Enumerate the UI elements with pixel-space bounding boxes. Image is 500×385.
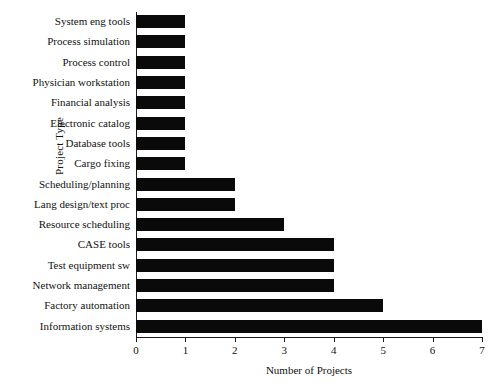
bar-row: Cargo fixing: [136, 154, 482, 174]
bar: [136, 218, 284, 231]
bar-row: Resource scheduling: [136, 215, 482, 235]
x-tick: [136, 337, 137, 342]
x-axis-title: Number of Projects: [136, 364, 482, 376]
x-tick: [383, 337, 384, 342]
bar-row: Process control: [136, 53, 482, 73]
category-label: Information systems: [40, 319, 130, 333]
x-tick-label: 3: [272, 344, 296, 356]
bar: [136, 238, 334, 251]
category-label: System eng tools: [55, 14, 130, 28]
bar-row: Network management: [136, 276, 482, 296]
x-tick-label: 7: [470, 344, 494, 356]
bar-row: Financial analysis: [136, 93, 482, 113]
category-label: Scheduling/planning: [39, 177, 130, 191]
bar-row: Electronic catalog: [136, 114, 482, 134]
bar-row: Scheduling/planning: [136, 175, 482, 195]
x-tick-label: 6: [421, 344, 445, 356]
bar-row: System eng tools: [136, 12, 482, 32]
bar: [136, 35, 185, 48]
category-label: Electronic catalog: [50, 116, 130, 130]
bar: [136, 15, 185, 28]
bar: [136, 299, 383, 312]
bar-chart: Project Type System eng toolsProcess sim…: [0, 0, 500, 385]
bar-row: Information systems: [136, 317, 482, 337]
bar: [136, 56, 185, 69]
x-tick-label: 5: [371, 344, 395, 356]
bar: [136, 137, 185, 150]
bar-row: Lang design/text proc: [136, 195, 482, 215]
category-label: Test equipment sw: [48, 258, 130, 272]
category-label: Resource scheduling: [39, 217, 130, 231]
category-label: Cargo fixing: [74, 156, 130, 170]
category-label: Lang design/text proc: [34, 197, 130, 211]
x-tick-label: 2: [223, 344, 247, 356]
category-label: Network management: [33, 278, 130, 292]
bar-row: Physician workstation: [136, 73, 482, 93]
bar-row: Database tools: [136, 134, 482, 154]
category-label: Process control: [62, 55, 130, 69]
bar: [136, 178, 235, 191]
x-tick-label: 1: [173, 344, 197, 356]
category-label: Factory automation: [44, 298, 130, 312]
bar: [136, 76, 185, 89]
bar-row: CASE tools: [136, 235, 482, 255]
bar: [136, 157, 185, 170]
bar: [136, 259, 334, 272]
bar: [136, 279, 334, 292]
plot-area: System eng toolsProcess simulationProces…: [136, 12, 482, 337]
bar-row: Test equipment sw: [136, 256, 482, 276]
x-axis-line: [136, 337, 483, 338]
x-tick: [482, 337, 483, 342]
bar: [136, 198, 235, 211]
bar-row: Process simulation: [136, 32, 482, 52]
category-label: Financial analysis: [51, 95, 130, 109]
x-tick-label: 0: [124, 344, 148, 356]
bar: [136, 320, 482, 333]
x-tick: [235, 337, 236, 342]
x-tick: [185, 337, 186, 342]
x-tick-label: 4: [322, 344, 346, 356]
category-label: Database tools: [66, 136, 130, 150]
category-label: Physician workstation: [33, 75, 130, 89]
category-label: CASE tools: [78, 237, 130, 251]
category-label: Process simulation: [47, 34, 130, 48]
bar-row: Factory automation: [136, 296, 482, 316]
bar: [136, 96, 185, 109]
x-tick: [334, 337, 335, 342]
bar: [136, 117, 185, 130]
x-tick: [284, 337, 285, 342]
x-tick: [433, 337, 434, 342]
